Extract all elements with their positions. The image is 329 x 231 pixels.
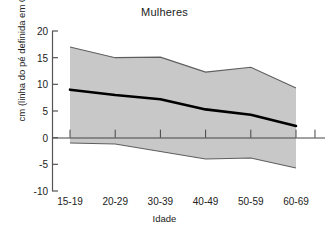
- x-axis-label: Idade: [0, 213, 329, 224]
- x-axis-tick-label: 60-69: [268, 196, 324, 207]
- chart-figure: Mulheres cm (linha do pé definida em 0) …: [0, 0, 329, 231]
